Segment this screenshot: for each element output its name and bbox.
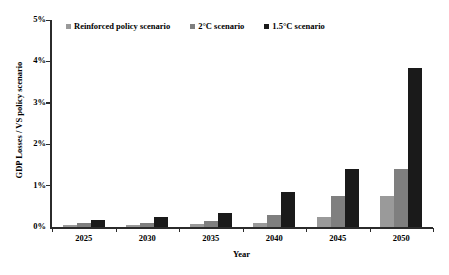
- y-tick-label-3pct: 3%: [20, 98, 46, 107]
- plot-area: [52, 20, 433, 227]
- x-tick-label-2025: 2025: [54, 233, 114, 243]
- legend-label: 2°C scenario: [198, 22, 244, 31]
- bar-2050-series-0: [380, 196, 394, 227]
- legend-item-1: 2°C scenario: [190, 22, 244, 31]
- bar-chart: GDP Losses / VS policy scenario 0%1%2%3%…: [0, 0, 449, 275]
- bar-2030-series-0: [126, 225, 140, 227]
- bar-2030-series-1: [140, 223, 154, 227]
- x-tick-label-2040: 2040: [244, 233, 304, 243]
- x-tick-label-2045: 2045: [308, 233, 368, 243]
- bar-group-2030: [126, 20, 168, 227]
- bar-2045-series-0: [317, 217, 331, 227]
- bar-2040-series-1: [267, 215, 281, 227]
- bar-group-2025: [63, 20, 105, 227]
- x-tick-mark: [243, 228, 244, 232]
- bar-2040-series-0: [253, 223, 267, 227]
- bar-2025-series-1: [77, 223, 91, 227]
- y-tick-mark: [46, 144, 51, 145]
- y-tick-label-5pct: 5%: [20, 15, 46, 24]
- x-tick-mark: [433, 228, 434, 232]
- bar-2045-series-2: [345, 169, 359, 227]
- bar-group-2050: [380, 20, 422, 227]
- bar-2030-series-2: [154, 217, 168, 227]
- chart-legend: Reinforced policy scenario2°C scenario1.…: [66, 22, 325, 31]
- x-axis-title: Year: [50, 249, 433, 259]
- y-tick-label-0pct: 0%: [20, 222, 46, 231]
- y-tick-label-4pct: 4%: [20, 56, 46, 65]
- bar-2050-series-1: [394, 169, 408, 227]
- x-tick-mark: [370, 228, 371, 232]
- bar-2050-series-2: [408, 68, 422, 227]
- legend-swatch-icon: [190, 24, 195, 29]
- legend-swatch-icon: [264, 24, 269, 29]
- legend-item-0: Reinforced policy scenario: [66, 22, 170, 31]
- bar-2025-series-0: [63, 225, 77, 227]
- bar-2035-series-0: [190, 224, 204, 227]
- bar-group-2040: [253, 20, 295, 227]
- y-tick-mark: [46, 61, 51, 62]
- y-axis-ticks: 0%1%2%3%4%5%: [16, 0, 46, 275]
- x-tick-label-2030: 2030: [117, 233, 177, 243]
- y-tick-mark: [46, 102, 51, 103]
- legend-swatch-icon: [66, 24, 71, 29]
- bar-2045-series-1: [331, 196, 345, 227]
- x-tick-mark: [52, 228, 53, 232]
- y-tick-mark: [46, 20, 51, 21]
- y-tick-mark: [46, 185, 51, 186]
- y-tick-label-2pct: 2%: [20, 139, 46, 148]
- bar-group-2045: [317, 20, 359, 227]
- bar-group-2035: [190, 20, 232, 227]
- bar-2040-series-2: [281, 192, 295, 227]
- x-tick-label-2050: 2050: [371, 233, 431, 243]
- bar-2035-series-2: [218, 213, 232, 227]
- x-tick-label-2035: 2035: [181, 233, 241, 243]
- legend-item-2: 1.5°C scenario: [264, 22, 325, 31]
- x-axis-line: [50, 227, 433, 229]
- legend-label: 1.5°C scenario: [272, 22, 325, 31]
- legend-label: Reinforced policy scenario: [74, 22, 170, 31]
- x-tick-mark: [179, 228, 180, 232]
- bar-2035-series-1: [204, 221, 218, 227]
- x-tick-mark: [306, 228, 307, 232]
- bar-2025-series-2: [91, 220, 105, 227]
- y-tick-label-1pct: 1%: [20, 181, 46, 190]
- x-tick-mark: [116, 228, 117, 232]
